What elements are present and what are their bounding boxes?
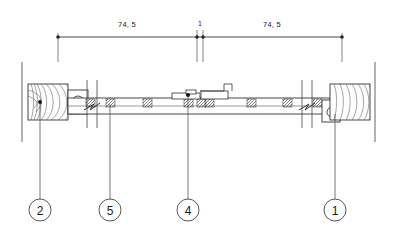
left-wood-block bbox=[28, 84, 73, 120]
left-block-leader-dot bbox=[38, 100, 42, 104]
section-mark bbox=[283, 99, 292, 107]
center-bracket-assembly bbox=[172, 84, 232, 99]
dimension-tick-center-a bbox=[195, 35, 199, 39]
bracket-riser bbox=[224, 84, 232, 91]
callout-label-5[interactable]: 5 bbox=[107, 204, 114, 218]
dimension-label-right: 74, 5 bbox=[263, 20, 281, 29]
callout-label-1[interactable]: 1 bbox=[332, 204, 339, 218]
cad-drawing-canvas: 74, 5 1 74, 5 2 5 4 1 bbox=[0, 0, 397, 240]
section-mark bbox=[184, 99, 193, 107]
callout-label-2[interactable]: 2 bbox=[37, 204, 44, 218]
callout-label-4[interactable]: 4 bbox=[185, 204, 192, 218]
section-mark bbox=[247, 99, 256, 107]
dimension-chain bbox=[56, 30, 344, 62]
dimension-tick-right bbox=[340, 35, 344, 39]
dimension-label-center: 1 bbox=[198, 20, 202, 27]
bracket-plate-right bbox=[201, 91, 228, 99]
section-mark bbox=[143, 99, 152, 107]
dimension-tick-center-b bbox=[201, 35, 205, 39]
dimension-tick-left bbox=[56, 35, 60, 39]
center-leader-dot bbox=[186, 93, 190, 97]
section-mark bbox=[197, 99, 206, 107]
section-mark bbox=[106, 99, 115, 107]
section-mark bbox=[205, 99, 214, 107]
dimension-label-left: 74, 5 bbox=[118, 20, 136, 29]
right-wood-block bbox=[330, 84, 373, 120]
